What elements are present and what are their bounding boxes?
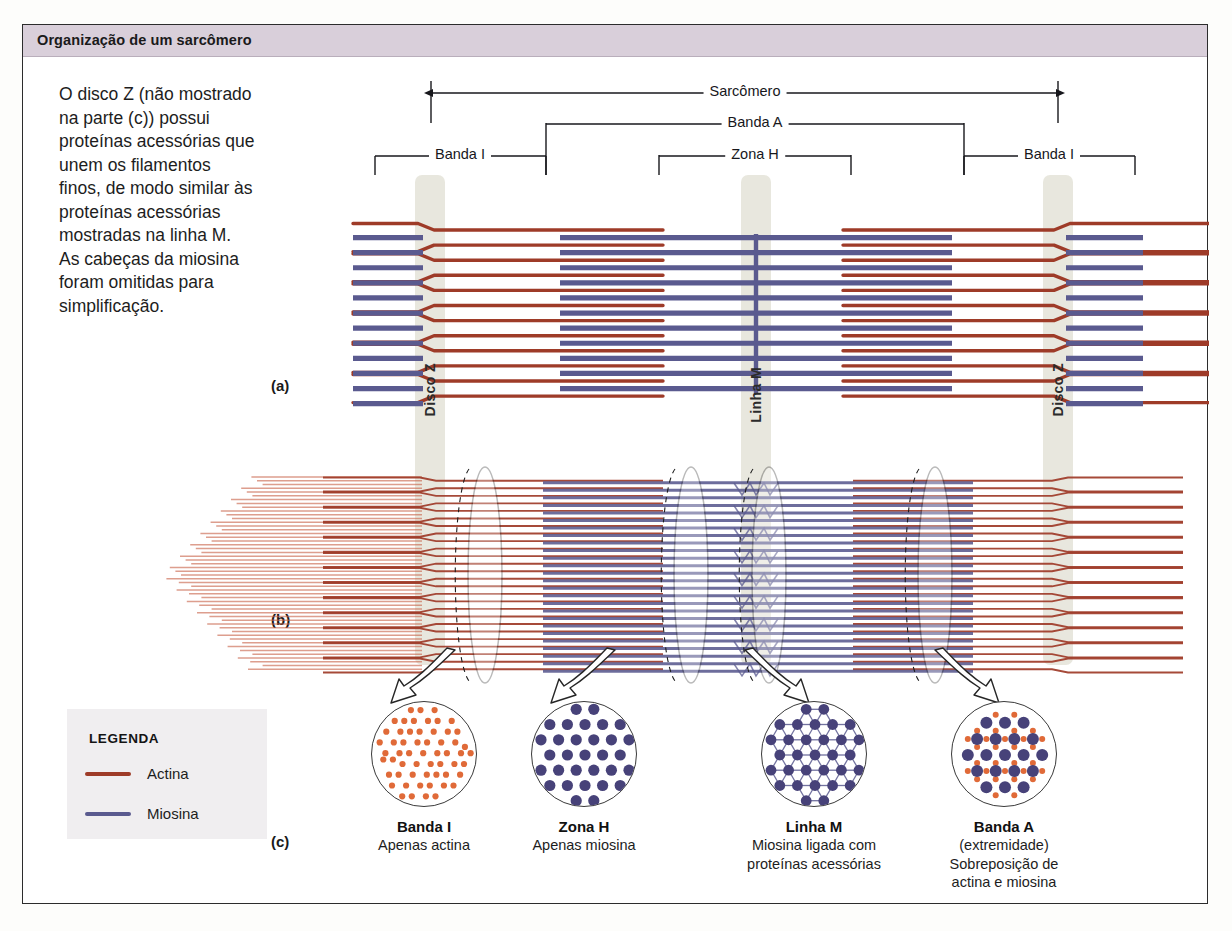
z-disc-right-label: Disco Z — [1050, 363, 1066, 416]
z-disc-left-label: Disco Z — [422, 363, 438, 416]
cross-section-caption-banda-a: Banda A (extremidade) Sobreposição de ac… — [894, 817, 1114, 892]
cross-section-desc-banda-a: (extremidade) — [894, 836, 1114, 855]
legend-swatch-miosina — [85, 812, 131, 816]
cross-section-caption-linha-m: Linha M Miosina ligada com proteínas ace… — [704, 817, 924, 873]
cross-section-desc-zona-h: Apenas miosina — [474, 836, 694, 855]
figure-page: Organização de um sarcômero O disco Z (n… — [0, 0, 1232, 931]
cross-section-circle-zona-h — [531, 701, 637, 807]
cross-section-desc2-linha-m: proteínas acessórias — [704, 855, 924, 874]
cross-section-circle-linha-m — [761, 701, 867, 807]
cross-section-circle-banda-a — [951, 701, 1057, 807]
cross-section-desc3-banda-a: actina e miosina — [894, 873, 1114, 892]
m-line-label: Linha M — [748, 367, 764, 423]
cross-section-title-banda-a: Banda A — [894, 817, 1114, 836]
legend-label-actina: Actina — [147, 765, 189, 782]
legend-box: LEGENDA Actina Miosina — [67, 709, 267, 839]
legend-swatch-actina — [85, 772, 131, 776]
cross-section-title-linha-m: Linha M — [704, 817, 924, 836]
cross-section-caption-zona-h: Zona H Apenas miosina — [474, 817, 694, 855]
legend-label-miosina: Miosina — [147, 805, 199, 822]
legend-title: LEGENDA — [89, 731, 159, 746]
cross-section-desc-linha-m: Miosina ligada com — [704, 836, 924, 855]
cross-section-title-zona-h: Zona H — [474, 817, 694, 836]
cross-section-circle-banda-i — [371, 701, 477, 807]
figure-frame: Organização de um sarcômero O disco Z (n… — [22, 24, 1208, 904]
cross-section-desc2-banda-a: Sobreposição de — [894, 855, 1114, 874]
